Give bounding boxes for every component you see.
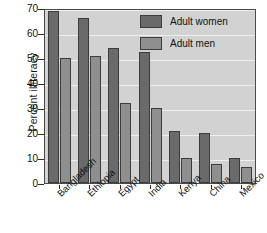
legend-swatch-men <box>140 37 162 50</box>
bar-group-bangladesh <box>48 10 71 183</box>
bar-bangladesh-men <box>60 58 71 183</box>
y-tick-label-60: 60 <box>16 29 38 39</box>
y-tickmark-70 <box>38 9 44 10</box>
bar-china-women <box>199 133 210 183</box>
y-tick-label-40: 40 <box>16 79 38 89</box>
y-tickmark-10 <box>38 159 44 160</box>
y-tickmark-40 <box>38 84 44 85</box>
legend-item-men: Adult men <box>140 35 252 52</box>
bar-egypt-men <box>120 103 131 183</box>
bar-india-men <box>151 108 162 183</box>
bar-group-egypt <box>108 10 131 183</box>
bar-kenya-women <box>169 131 180 184</box>
y-tick-label-20: 20 <box>16 129 38 139</box>
bar-egypt-women <box>108 48 119 183</box>
bar-chart: Percent illiteracy 010203040506070 Adult… <box>0 0 267 233</box>
y-tick-label-0: 0 <box>16 179 38 189</box>
legend-swatch-women <box>140 15 162 28</box>
legend-item-women: Adult women <box>140 13 252 30</box>
y-tick-label-10: 10 <box>16 154 38 164</box>
bar-india-women <box>139 52 150 183</box>
y-axis-tick-labels: 010203040506070 <box>12 0 38 233</box>
bar-bangladesh-women <box>48 11 59 184</box>
y-tickmark-30 <box>38 109 44 110</box>
legend-label-women: Adult women <box>170 16 228 27</box>
legend-label-men: Adult men <box>170 38 215 49</box>
y-tickmark-60 <box>38 34 44 35</box>
y-tickmark-20 <box>38 134 44 135</box>
x-axis-tick-labels: BangladeshEthiopiaEgyptIndiaKenyaChinaMe… <box>44 185 256 233</box>
y-tickmark-50 <box>38 59 44 60</box>
legend: Adult womenAdult men <box>140 13 252 57</box>
y-tick-label-50: 50 <box>16 54 38 64</box>
y-tick-label-30: 30 <box>16 104 38 114</box>
y-tick-label-70: 70 <box>16 4 38 14</box>
